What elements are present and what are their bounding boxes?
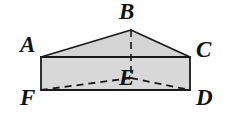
vertex-label-F: F bbox=[20, 86, 35, 109]
vertex-label-C: C bbox=[196, 38, 211, 61]
vertex-label-E: E bbox=[119, 66, 134, 89]
geometry-figure: A B C D E F bbox=[0, 0, 228, 116]
vertex-label-D: D bbox=[196, 86, 213, 109]
vertex-label-B: B bbox=[119, 0, 134, 23]
vertex-label-A: A bbox=[20, 33, 35, 56]
